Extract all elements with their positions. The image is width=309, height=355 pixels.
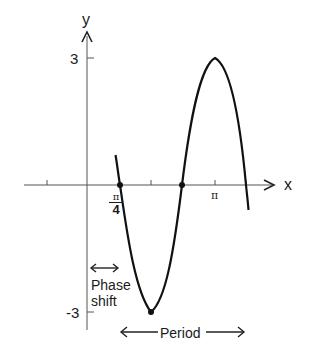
fraction-denominator: 4 [109, 203, 123, 216]
phase-shift-label: Phase shift [91, 277, 131, 309]
period-label: Period [160, 325, 200, 341]
phase-shift-line2: shift [91, 293, 131, 309]
minimum-point [148, 309, 154, 315]
zero-point-mid [179, 182, 185, 188]
phase-shift-arrow-icon [91, 264, 118, 272]
y-min-label: -3 [66, 305, 79, 320]
y-axis-label: y [82, 12, 90, 28]
graph-canvas [0, 0, 309, 355]
x-ticks [47, 180, 246, 185]
phase-shift-line1: Phase [91, 277, 131, 293]
x-axis-label: x [284, 177, 292, 193]
y-max-label: 3 [70, 51, 78, 66]
x-tick-pi-over-4-label: π 4 [109, 191, 123, 216]
x-tick-pi-label: π [211, 190, 218, 201]
zero-point-start [117, 182, 123, 188]
